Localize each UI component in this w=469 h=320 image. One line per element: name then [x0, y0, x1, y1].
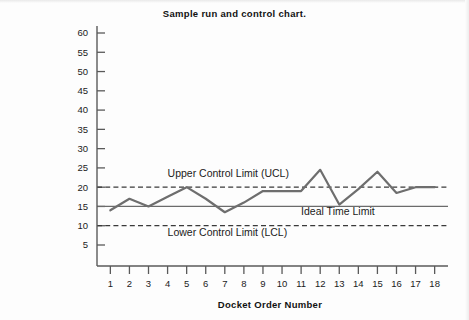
y-tick-label: 40 [77, 104, 88, 115]
x-tick-label: 8 [241, 278, 246, 289]
y-tick-label: 45 [77, 85, 88, 96]
x-axis-label: Docket Order Number [90, 299, 450, 310]
y-tick-label: 5 [83, 239, 88, 250]
reference-line-labels: Upper Control Limit (UCL)Ideal Time Limi… [168, 167, 375, 238]
run-control-chart: Sample run and control chart. Time meal … [0, 0, 469, 320]
y-tick-label: 10 [77, 220, 88, 231]
y-tick-label: 15 [77, 201, 88, 212]
y-tick-labels: 51015202530354045505560 [77, 27, 88, 250]
x-tick-label: 18 [429, 278, 440, 289]
x-tick-label: 14 [353, 278, 364, 289]
x-tick-label: 10 [277, 278, 288, 289]
x-tick-label: 12 [315, 278, 326, 289]
x-tick-label: 7 [222, 278, 227, 289]
x-tick-label: 4 [165, 278, 170, 289]
x-tick-label: 1 [108, 278, 113, 289]
x-tick-label: 6 [203, 278, 208, 289]
x-tick-label: 5 [184, 278, 189, 289]
x-tick-label: 2 [127, 278, 132, 289]
x-tick-label: 11 [296, 278, 306, 289]
y-tick-label: 55 [77, 47, 88, 58]
y-tick-label: 20 [77, 182, 88, 193]
y-tick-label: 50 [77, 66, 88, 77]
x-tick-labels: 123456789101112131415161718 [108, 278, 440, 289]
x-tick-label: 15 [372, 278, 383, 289]
y-tick-label: 35 [77, 124, 88, 135]
x-tick-label: 13 [334, 278, 345, 289]
ideal-time-limit-label: Ideal Time Limit [301, 205, 375, 217]
y-tick-label: 60 [77, 27, 88, 38]
lower-control-limit-label: Lower Control Limit (LCL) [168, 226, 288, 238]
y-tick-label: 30 [77, 143, 88, 154]
upper-control-limit-label: Upper Control Limit (UCL) [168, 167, 289, 179]
y-tick-marks [97, 33, 105, 245]
x-tick-label: 9 [260, 278, 265, 289]
y-tick-label: 25 [77, 162, 88, 173]
plot-area: 51015202530354045505560 1234567891011121… [0, 0, 469, 320]
x-tick-label: 17 [410, 278, 421, 289]
x-tick-marks [110, 266, 434, 274]
x-tick-label: 16 [391, 278, 402, 289]
x-tick-label: 3 [146, 278, 151, 289]
